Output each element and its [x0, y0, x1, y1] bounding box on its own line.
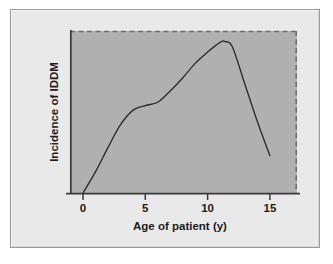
x-axis-title: Age of patient (y)	[133, 220, 227, 232]
x-tick-label-0: 0	[80, 202, 86, 214]
figure-container: 0 5 10 15 Age of patient (y) Incidence o…	[0, 0, 333, 264]
y-axis-title: Incidence of IDDM	[48, 62, 60, 162]
iddm-incidence-chart: 0 5 10 15 Age of patient (y) Incidence o…	[0, 0, 333, 264]
x-tick-label-10: 10	[201, 202, 214, 214]
x-tick-label-5: 5	[142, 202, 149, 214]
x-tick-label-15: 15	[264, 202, 277, 214]
plot-area-background	[70, 31, 297, 193]
